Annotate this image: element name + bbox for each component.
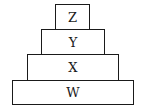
layer-label: X <box>68 60 77 75</box>
layer-label: W <box>66 85 79 100</box>
layer-x: X <box>27 54 119 81</box>
layer-z: Z <box>55 4 90 30</box>
layer-w: W <box>12 80 134 105</box>
layer-label: Y <box>69 35 78 50</box>
layer-label: Z <box>68 10 77 25</box>
layer-y: Y <box>41 29 105 55</box>
